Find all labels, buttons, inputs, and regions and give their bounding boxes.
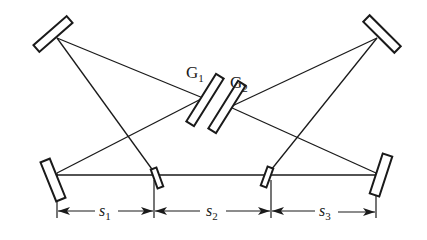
label-G2: G2	[230, 73, 248, 94]
label-s2: s2	[206, 202, 218, 222]
mirror-bottom-left	[40, 159, 65, 202]
beam-g2-to-br	[230, 107, 376, 173]
mirrors	[33, 15, 400, 201]
dimension-labels: s1 s2 s3	[99, 202, 331, 222]
label-G1: G1	[186, 63, 204, 84]
label-s1: s1	[99, 202, 111, 222]
mirror-top-left	[33, 16, 72, 52]
optical-diagram: G1 G2 s1 s2 s3	[0, 0, 427, 240]
fold-mirror-left	[151, 168, 163, 189]
beam-g1-to-bl	[57, 98, 203, 173]
label-s3: s3	[319, 202, 331, 222]
beam-paths	[57, 38, 377, 175]
beam-tr-to-g2	[230, 38, 377, 107]
